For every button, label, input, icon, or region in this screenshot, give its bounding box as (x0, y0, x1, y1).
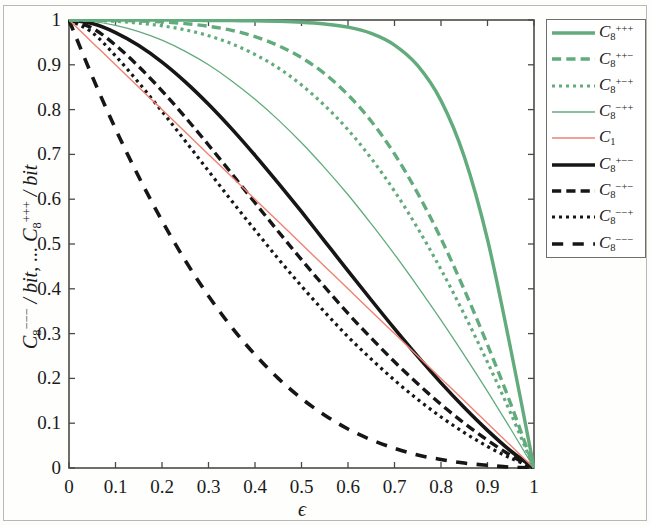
legend-line-sample (551, 52, 596, 66)
x-tick-label: 0.1 (104, 476, 128, 498)
legend-swatch-c8-plus-minus-minus (551, 158, 596, 172)
legend-swatch-c8-plus-plus-minus (551, 52, 596, 66)
y-tick-label: 0.9 (5, 54, 61, 76)
x-tick-label: 0.3 (197, 476, 221, 498)
legend-line-sample (551, 158, 596, 172)
legend-item-c8-plus-minus-minus[interactable]: C8+−− (547, 151, 645, 177)
legend-swatch-c8-minus-plus-plus (551, 105, 596, 119)
x-tick-label: 0.7 (383, 476, 407, 498)
legend-item-c1[interactable]: C1 (547, 125, 645, 151)
x-tick-label: 1 (529, 476, 539, 498)
y-tick-label: 1 (5, 9, 61, 31)
legend-swatch-c8-minus-minus-plus (551, 210, 596, 224)
x-axis-label: ϵ (69, 498, 535, 521)
legend-line-sample (551, 105, 596, 119)
legend-swatch-c1 (551, 131, 596, 145)
legend-label: C8+−− (599, 155, 633, 175)
legend-item-c8-minus-plus-minus[interactable]: C8−+− (547, 178, 645, 204)
y-tick-label: 0 (5, 457, 61, 479)
x-tick-label: 0.6 (336, 476, 360, 498)
legend-swatch-c8-minus-plus-minus (551, 184, 596, 198)
chart-legend: C8+++C8++−C8+−+C8−++C1C8+−−C8−+−C8−−+C8−… (546, 19, 646, 258)
x-tick-label: 0.4 (243, 476, 267, 498)
legend-label: C8+−+ (599, 76, 633, 96)
x-tick-label: 0.5 (290, 476, 314, 498)
legend-line-sample (551, 79, 596, 93)
x-tick-label: 0.9 (476, 476, 500, 498)
legend-swatch-c8-plus-minus-plus (551, 79, 596, 93)
legend-label: C8−++ (599, 102, 633, 122)
legend-line-sample (551, 210, 596, 224)
legend-line-sample (551, 131, 596, 145)
legend-item-c8-plus-plus-plus[interactable]: C8+++ (547, 20, 645, 46)
x-tick-label: 0.2 (150, 476, 174, 498)
legend-label: C8+++ (599, 23, 633, 43)
legend-label: C8−+− (599, 181, 633, 201)
legend-item-c8-minus-minus-minus[interactable]: C8−−− (547, 230, 645, 256)
figure-container: 00.10.20.30.40.50.60.70.80.91 00.10.20.3… (0, 0, 651, 525)
legend-item-c8-minus-minus-plus[interactable]: C8−−+ (547, 204, 645, 230)
x-tick-label: 0.8 (429, 476, 453, 498)
legend-swatch-c8-plus-plus-plus (551, 26, 596, 40)
legend-swatch-c8-minus-minus-minus (551, 237, 596, 251)
legend-line-sample (551, 184, 596, 198)
legend-label: C8−−+ (599, 207, 633, 227)
legend-item-c8-minus-plus-plus[interactable]: C8−++ (547, 99, 645, 125)
x-tick-label: 0 (64, 476, 74, 498)
legend-label: C8++− (599, 50, 633, 70)
legend-label: C8−−− (599, 234, 633, 254)
legend-item-c8-plus-minus-plus[interactable]: C8+−+ (547, 73, 645, 99)
y-tick-label: 0.1 (5, 412, 61, 434)
legend-item-c8-plus-plus-minus[interactable]: C8++− (547, 46, 645, 72)
legend-line-sample (551, 26, 596, 40)
y-axis-label: C8−−− / bit, ... C8+++ / bit (19, 107, 45, 407)
legend-label: C1 (599, 128, 616, 148)
legend-line-sample (551, 237, 596, 251)
